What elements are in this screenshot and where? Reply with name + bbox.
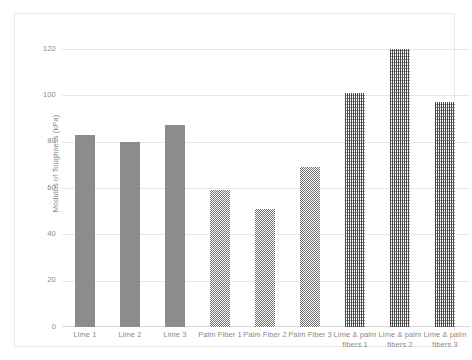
bar-lime-1 [75, 135, 95, 327]
bar-lime-3 [165, 125, 185, 327]
bar-lime-palm-3 [435, 102, 455, 327]
y-axis-title: Modulus of Toughness (kPa) [51, 84, 60, 244]
bar-lime-palm-2 [390, 49, 410, 327]
bar-lime-palm-1 [345, 93, 365, 327]
bar-lime-2 [120, 142, 140, 327]
y-axis-title-container: Modulus of Toughness (kPa) [37, 49, 49, 327]
chart-frame: 120 100 80 60 40 20 0 Modulus of Toughne… [14, 13, 455, 347]
bar-palm-fiber-2 [255, 209, 275, 327]
x-axis-tick-labels: Lime 1 Lime 2 Lime 3 Palm Fiber 1 Palm F… [62, 330, 470, 360]
x-label-lime-palm-3: Lime & palm fibers 3 [418, 330, 472, 350]
bar-palm-fiber-1 [210, 190, 230, 327]
plot-area [62, 49, 470, 327]
bar-palm-fiber-3 [300, 167, 320, 327]
